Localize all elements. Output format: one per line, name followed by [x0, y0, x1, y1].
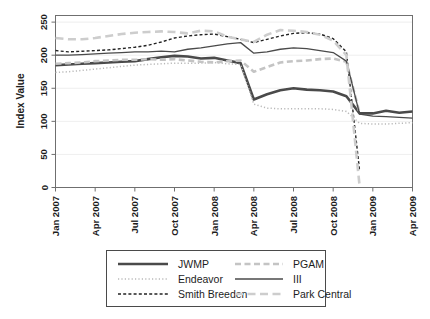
x-tick-label: Jan 2007	[50, 196, 61, 236]
y-tick-label: 50	[39, 149, 50, 160]
x-tick-label: Jan 2008	[209, 196, 220, 236]
legend-label-endeavor: Endeavor	[178, 273, 223, 285]
chart-legend: JWMPPGAMEndeavorIIISmith BreedenPark Cen…	[107, 251, 352, 307]
y-axis-title: Index Value	[15, 73, 26, 128]
x-tick-label: Apr 2009	[407, 196, 418, 236]
series-line-endeavor	[56, 62, 413, 124]
chart-figure: 050100150200250 Jan 2007Apr 2007Jul 2007…	[0, 0, 430, 319]
y-tick-label: 200	[39, 47, 50, 63]
y-tick-label: 0	[39, 185, 50, 190]
x-tick-label: Oct 2007	[169, 196, 180, 236]
series-line-jwmp	[56, 56, 413, 114]
y-tick-label: 100	[39, 113, 50, 129]
line-chart: 050100150200250 Jan 2007Apr 2007Jul 2007…	[0, 0, 430, 319]
svg-text:Index Value: Index Value	[15, 73, 26, 128]
y-tick-label: 150	[39, 80, 50, 96]
x-tick-label: Jul 2007	[129, 196, 140, 234]
series-line-pgam	[56, 59, 360, 114]
legend-label-pgam: PGAM	[293, 258, 324, 270]
x-tick-label: Apr 2008	[248, 196, 259, 236]
legend-label-park-central: Park Central	[293, 288, 351, 300]
y-axis-ticks: 050100150200250	[39, 14, 56, 190]
x-tick-label: Apr 2007	[90, 196, 101, 236]
x-tick-label: Jan 2009	[367, 196, 378, 236]
x-tick-label: Oct 2008	[328, 196, 339, 236]
legend-label-iii: III	[293, 273, 302, 285]
y-tick-label: 250	[39, 14, 50, 30]
data-series-group	[56, 30, 413, 186]
x-axis-ticks: Jan 2007Apr 2007Jul 2007Oct 2007Jan 2008…	[50, 188, 418, 237]
x-tick-label: Jul 2008	[288, 196, 299, 234]
legend-label-jwmp: JWMP	[178, 258, 209, 270]
